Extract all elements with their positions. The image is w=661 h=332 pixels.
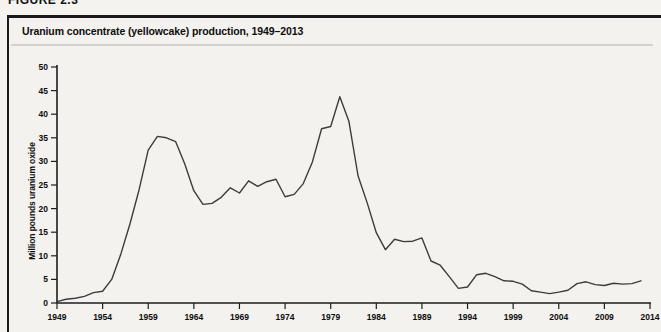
y-tick-label: 5 <box>43 274 48 284</box>
x-tick-label: 1999 <box>504 312 523 322</box>
y-tick-label: 50 <box>39 62 49 72</box>
x-tick-label: 1969 <box>230 312 249 322</box>
y-tick-label: 20 <box>39 204 49 214</box>
y-tick-label: 35 <box>39 133 49 143</box>
x-tick-label: 2014 <box>641 312 660 322</box>
y-tick-label: 45 <box>39 86 49 96</box>
line-chart-plot: 0510152025303540455019491954195919641969… <box>0 0 661 332</box>
x-tick-label: 1979 <box>321 312 340 322</box>
y-tick-label: 25 <box>39 180 49 190</box>
y-tick-label: 40 <box>39 109 49 119</box>
y-tick-label: 10 <box>39 251 49 261</box>
y-tick-label: 30 <box>39 156 49 166</box>
x-tick-label: 1974 <box>276 312 295 322</box>
x-tick-label: 1964 <box>184 312 203 322</box>
x-tick-label: 2004 <box>549 312 568 322</box>
y-tick-label: 15 <box>39 227 49 237</box>
x-tick-label: 2009 <box>595 312 614 322</box>
x-tick-label: 1994 <box>458 312 477 322</box>
x-tick-label: 1959 <box>139 312 158 322</box>
figure-canvas: FIGURE 2.3 Uranium concentrate (yellowca… <box>0 0 661 332</box>
y-tick-label: 0 <box>43 298 48 308</box>
x-tick-label: 1989 <box>412 312 431 322</box>
x-tick-label: 1949 <box>48 312 67 322</box>
data-series-line <box>57 97 641 302</box>
x-tick-label: 1984 <box>367 312 386 322</box>
x-tick-label: 1954 <box>93 312 112 322</box>
